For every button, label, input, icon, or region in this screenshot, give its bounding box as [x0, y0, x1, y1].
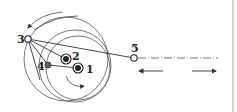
- joint-4: [45, 62, 51, 68]
- mechanism-diagram: 1 2 3 4 5: [0, 0, 237, 112]
- label-4: 4: [37, 60, 45, 73]
- rotation-arrow-around-1: [66, 76, 84, 86]
- label-2: 2: [72, 50, 80, 63]
- link-3-5: [28, 39, 134, 58]
- joint-1: [73, 63, 83, 73]
- joint-3: [25, 36, 31, 42]
- label-3: 3: [17, 33, 25, 46]
- rotation-arrow-outer: [28, 12, 62, 28]
- label-5: 5: [131, 42, 139, 55]
- label-1: 1: [86, 63, 94, 76]
- joint-2: [61, 54, 71, 64]
- joint-5: [131, 55, 137, 61]
